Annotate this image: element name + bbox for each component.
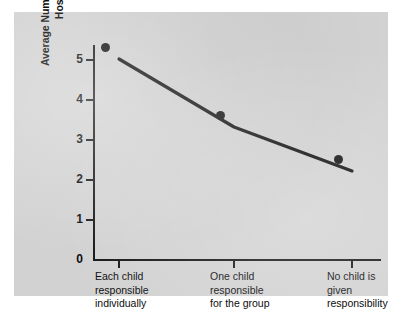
x-category-3-line-2: given [327, 284, 402, 298]
x-category-3-line-1: No child is [327, 270, 402, 284]
x-tick-mark-1 [118, 261, 120, 268]
y-tick-label-4: 4 [65, 92, 83, 106]
x-category-label-1: Each child responsible individually [95, 270, 215, 311]
figure-container: Average Number of Candies Donated for Ho… [0, 0, 402, 316]
x-category-1-line-3: individually [95, 297, 215, 311]
data-line [119, 59, 352, 171]
x-category-3-line-3: responsibility [327, 297, 402, 311]
y-tick-label-1: 1 [65, 212, 83, 226]
y-axis-line [93, 45, 95, 261]
y-tick-mark-4 [86, 99, 94, 101]
y-tick-label-0: 0 [65, 252, 83, 266]
x-category-2-line-3: for the group [210, 297, 330, 311]
x-category-label-3: No child is given responsibility [327, 270, 402, 311]
y-tick-label-2: 2 [65, 172, 83, 186]
y-tick-mark-2 [86, 179, 94, 181]
data-point-3 [334, 155, 343, 164]
y-tick-mark-5 [86, 59, 94, 61]
data-point-2 [216, 111, 225, 120]
y-tick-label-5: 5 [65, 52, 83, 66]
x-tick-mark-3 [351, 261, 353, 268]
chart-panel: Average Number of Candies Donated for Ho… [14, 12, 388, 296]
y-axis-title-line-2: Hospitalized Children [53, 0, 67, 19]
x-tick-mark-2 [233, 261, 235, 268]
y-axis-title-line-1: Average Number of Candies Donated for [39, 0, 53, 66]
y-tick-label-3: 3 [65, 132, 83, 146]
x-category-1-line-1: Each child [95, 270, 215, 284]
x-category-2-line-1: One child [210, 270, 330, 284]
data-point-1 [101, 43, 110, 52]
x-category-label-2: One child responsible for the group [210, 270, 330, 311]
x-category-2-line-2: responsible [210, 284, 330, 298]
y-tick-mark-1 [86, 219, 94, 221]
x-category-1-line-2: responsible [95, 284, 215, 298]
y-tick-mark-3 [86, 139, 94, 141]
y-axis-title: Average Number of Candies Donated for Ho… [35, 0, 71, 78]
x-axis-line [93, 259, 381, 261]
